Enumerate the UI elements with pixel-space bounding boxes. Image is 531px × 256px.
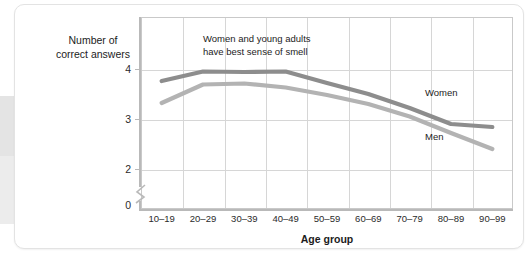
x-axis-title: Age group [141, 233, 513, 245]
chart-screenshot: Number of correct answers 0234 10–1920–2… [0, 0, 531, 256]
line-women [162, 72, 493, 128]
chart-card: Number of correct answers 0234 10–1920–2… [14, 4, 524, 249]
series-label-men: Men [425, 131, 443, 142]
chart-annotation: Women and young adults have best sense o… [203, 33, 311, 58]
series-label-women: Women [425, 87, 458, 98]
